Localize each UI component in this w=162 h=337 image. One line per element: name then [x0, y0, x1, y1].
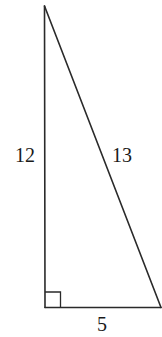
- hypotenuse-label: 13: [112, 144, 132, 166]
- vertical-leg-label: 12: [15, 144, 35, 166]
- hypotenuse: [45, 6, 162, 308]
- right-angle-marker-icon: [45, 292, 61, 308]
- right-triangle-diagram: 12 13 5: [0, 0, 162, 337]
- base-leg-label: 5: [97, 313, 107, 335]
- vertical-leg: [45, 6, 46, 308]
